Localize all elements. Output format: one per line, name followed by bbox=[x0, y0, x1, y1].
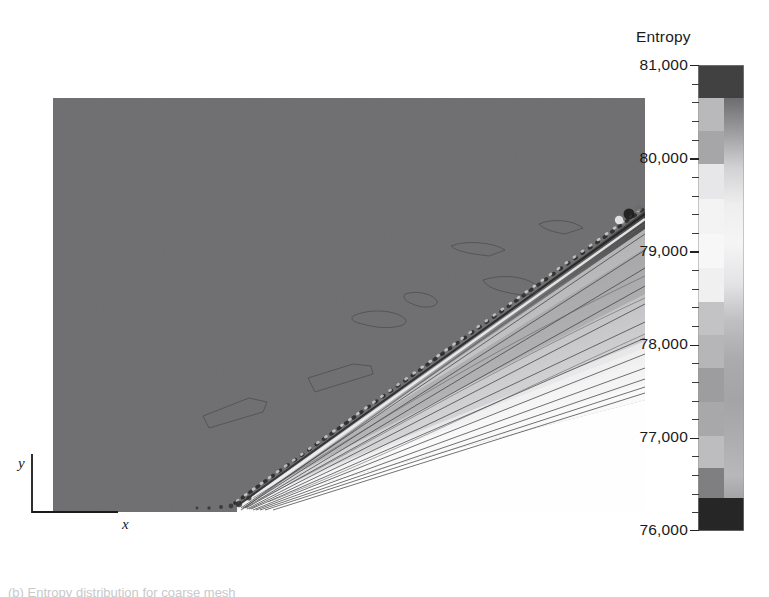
colorbar-label-76000: 76,000 bbox=[639, 521, 688, 539]
colorbar-label-81000: 81,000 bbox=[639, 56, 688, 74]
contour-plot-panel bbox=[53, 98, 645, 512]
colorbar-gradient bbox=[698, 65, 744, 531]
colorbar-title: Entropy bbox=[636, 28, 691, 46]
colorbar-label-78000: 78,000 bbox=[639, 335, 688, 353]
axis-indicator bbox=[26, 452, 136, 534]
grain-overlay bbox=[53, 98, 645, 512]
axis-lines bbox=[32, 454, 118, 512]
colorbar-tick-marks bbox=[690, 65, 699, 531]
colorbar-label-80000: 80,000 bbox=[639, 149, 688, 167]
contour-plot-canvas bbox=[53, 98, 645, 512]
colorbar-label-79000: 79,000 bbox=[639, 242, 688, 260]
y-axis-label: y bbox=[18, 455, 25, 472]
x-axis-label: x bbox=[122, 516, 129, 533]
figure-caption: (b) Entropy distribution for coarse mesh bbox=[8, 585, 428, 597]
colorbar: Entropy bbox=[628, 28, 769, 548]
colorbar-strip bbox=[698, 65, 744, 531]
colorbar-label-77000: 77,000 bbox=[639, 428, 688, 446]
